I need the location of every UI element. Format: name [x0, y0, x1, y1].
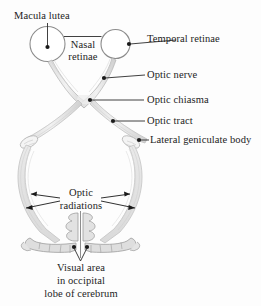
leader-optic-chiasma	[88, 98, 144, 102]
left-optic-radiations	[18, 145, 60, 243]
label-visual-area-line1: Visual area	[43, 262, 119, 274]
label-optic-radiations-line1: Optic	[61, 187, 101, 199]
label-optic-radiations-line2: radiations	[54, 200, 108, 212]
diagram-canvas	[0, 0, 261, 306]
right-eyeball	[101, 30, 130, 59]
label-optic-nerve: Optic nerve	[147, 69, 197, 81]
label-visual-area-line2: in occipital	[43, 275, 119, 287]
right-optic-tract	[90, 100, 147, 143]
label-optic-tract: Optic tract	[147, 115, 193, 127]
visual-pathway-diagram: Macula lutea Nasal retinae Temporal reti…	[0, 0, 261, 306]
label-nasal-retinae-line1: Nasal	[65, 39, 101, 51]
right-optic-radiations	[100, 145, 142, 243]
label-nasal-retinae-line2: retinae	[61, 51, 105, 63]
label-optic-chiasma: Optic chiasma	[147, 94, 209, 106]
label-lateral-geniculate-body: Lateral geniculate body	[150, 134, 251, 146]
label-temporal-retinae: Temporal retinae	[147, 33, 220, 45]
label-macula-lutea: Macula lutea	[14, 10, 70, 22]
label-visual-area-line3: lobe of cerebrum	[30, 288, 132, 300]
